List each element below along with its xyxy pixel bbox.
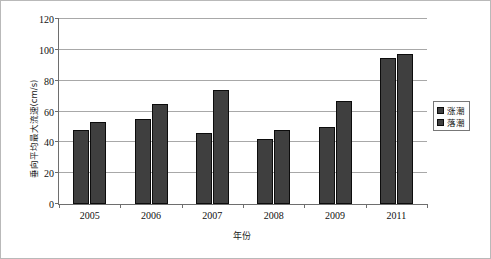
x-tick-label: 2006 — [141, 210, 161, 221]
x-tick-label: 2007 — [202, 210, 222, 221]
bar-group — [319, 19, 352, 204]
y-tick-label: 20 — [44, 168, 54, 179]
bar-group — [73, 19, 106, 204]
bar-group — [257, 19, 290, 204]
y-axis-title: 垂向平均最大流速(cm/s) — [27, 49, 39, 209]
x-tick-label: 2011 — [387, 210, 407, 221]
legend-swatch-icon — [437, 119, 444, 126]
bar — [73, 130, 89, 204]
bar — [319, 127, 335, 204]
x-tick-mark — [182, 204, 183, 208]
bar — [213, 90, 229, 204]
chart-legend: 涨潮落潮 — [433, 101, 470, 131]
x-tick-label: 2008 — [264, 210, 284, 221]
x-tick-mark — [120, 204, 121, 208]
bar-series-container — [59, 19, 427, 204]
bar-group — [135, 19, 168, 204]
legend-label: 落潮 — [447, 116, 465, 128]
x-tick-mark — [427, 204, 428, 208]
bar — [196, 133, 212, 204]
x-tick-mark — [366, 204, 367, 208]
y-tick-label: 100 — [39, 44, 54, 55]
legend-item: 落潮 — [437, 116, 465, 128]
bar — [336, 101, 352, 204]
bar — [135, 119, 151, 204]
bar — [274, 130, 290, 204]
chart-figure: 垂向平均最大流速(cm/s) 020406080100120 200520062… — [0, 0, 491, 259]
y-tick-label: 60 — [44, 106, 54, 117]
bar — [397, 54, 413, 204]
bar-group — [196, 19, 229, 204]
y-tick-label: 40 — [44, 137, 54, 148]
y-tick-label: 80 — [44, 75, 54, 86]
y-tick-label: 0 — [49, 199, 54, 210]
y-tick-label: 120 — [39, 14, 54, 25]
plot-area: 020406080100120 200520062007200820092011 — [58, 19, 427, 205]
legend-swatch-icon — [437, 107, 444, 114]
bar — [257, 139, 273, 204]
x-tick-label: 2005 — [80, 210, 100, 221]
legend-item: 涨潮 — [437, 104, 465, 116]
legend-label: 涨潮 — [447, 104, 465, 116]
x-tick-mark — [59, 204, 60, 208]
bar — [152, 104, 168, 204]
bar — [90, 122, 106, 204]
bar — [380, 58, 396, 204]
bar-group — [380, 19, 413, 204]
x-axis-title: 年份 — [58, 229, 426, 242]
x-tick-mark — [243, 204, 244, 208]
x-tick-label: 2009 — [325, 210, 345, 221]
x-tick-mark — [304, 204, 305, 208]
